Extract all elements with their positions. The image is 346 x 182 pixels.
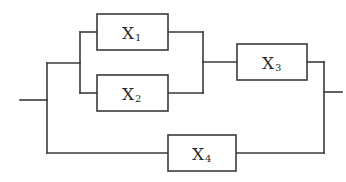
- block-x2-subscript: 2: [135, 93, 141, 104]
- block-x2-letter: X: [122, 84, 135, 104]
- block-x1-subscript: 1: [135, 32, 141, 43]
- block-x3-letter: X: [262, 53, 275, 73]
- block-x3-subscript: 3: [275, 62, 281, 73]
- block-x1: X 1: [97, 14, 168, 50]
- block-x4: X 4: [168, 135, 236, 171]
- block-x4-subscript: 4: [205, 153, 211, 164]
- block-x4-letter: X: [192, 144, 205, 164]
- block-x3: X 3: [237, 44, 307, 80]
- reliability-diagram: X 1 X 2 X 3 X 4: [0, 0, 346, 182]
- block-x2: X 2: [97, 75, 168, 111]
- block-x1-letter: X: [122, 23, 135, 43]
